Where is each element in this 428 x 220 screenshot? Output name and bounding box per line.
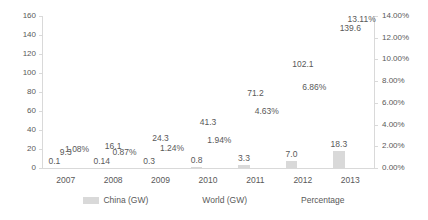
right-axis-tick-mark bbox=[375, 38, 378, 39]
x-axis-tick-label: 2012 bbox=[279, 176, 327, 185]
bar-china-gw-2010 bbox=[191, 167, 202, 168]
legend-label: China (GW) bbox=[103, 196, 148, 205]
right-axis-tick-mark bbox=[375, 59, 378, 60]
data-label: 0.87% bbox=[112, 148, 136, 157]
bar-world-gw-2007 bbox=[60, 159, 71, 168]
data-label: 6.86% bbox=[302, 83, 326, 92]
x-axis-tick-label: 2007 bbox=[42, 176, 90, 185]
data-label: 7.0 bbox=[286, 150, 298, 159]
right-axis-tick-label: 0.00% bbox=[382, 164, 426, 172]
right-axis-tick-mark bbox=[375, 168, 378, 169]
right-axis-tick-label: 12.00% bbox=[382, 34, 426, 42]
plot-area bbox=[42, 16, 374, 168]
data-label: 102.1 bbox=[292, 60, 313, 69]
data-label: 1.24% bbox=[160, 144, 184, 153]
bar-percentage-2011 bbox=[261, 118, 272, 168]
bar-percentage-2013 bbox=[356, 26, 367, 168]
right-axis-tick-label: 2.00% bbox=[382, 142, 426, 150]
legend-swatch-icon bbox=[281, 197, 297, 204]
legend-label: Percentage bbox=[301, 196, 344, 205]
left-axis-tick-label: 140 bbox=[6, 31, 36, 39]
left-axis-tick-label: 20 bbox=[6, 145, 36, 153]
left-axis-tick-label: 40 bbox=[6, 126, 36, 134]
category-axis-line bbox=[42, 168, 375, 169]
data-label: 1.08% bbox=[65, 145, 89, 154]
data-label: 0.14 bbox=[93, 157, 110, 166]
combo-chart: 020406080100120140160 0.00%2.00%4.00%6.0… bbox=[0, 0, 428, 220]
x-axis-tick-label: 2011 bbox=[231, 176, 279, 185]
bar-percentage-2007 bbox=[71, 156, 82, 168]
right-axis-line bbox=[374, 16, 375, 168]
right-axis-tick-label: 4.00% bbox=[382, 121, 426, 129]
data-label: 0.3 bbox=[143, 157, 155, 166]
bar-china-gw-2011 bbox=[238, 165, 249, 168]
data-label: 4.63% bbox=[255, 107, 279, 116]
left-axis-tick-label: 80 bbox=[6, 88, 36, 96]
data-label: 139.6 bbox=[340, 24, 361, 33]
left-axis-tick-label: 160 bbox=[6, 12, 36, 20]
bar-china-gw-2012 bbox=[286, 161, 297, 168]
legend-swatch-icon bbox=[182, 197, 198, 204]
data-label: 0.1 bbox=[48, 157, 60, 166]
right-axis-tick-mark bbox=[375, 125, 378, 126]
right-axis-tick-label: 14.00% bbox=[382, 12, 426, 20]
legend-item[interactable]: World (GW) bbox=[182, 196, 247, 205]
bar-percentage-2008 bbox=[119, 159, 130, 168]
right-axis-tick-mark bbox=[375, 81, 378, 82]
bar-china-gw-2013 bbox=[333, 151, 344, 168]
bar-percentage-2009 bbox=[166, 155, 177, 168]
data-label: 41.3 bbox=[200, 118, 217, 127]
right-axis-tick-mark bbox=[375, 103, 378, 104]
left-axis-tick-mark bbox=[39, 168, 42, 169]
left-axis-tick-label: 100 bbox=[6, 69, 36, 77]
bar-percentage-2012 bbox=[309, 94, 320, 168]
data-label: 0.8 bbox=[191, 156, 203, 165]
x-axis-tick-label: 2009 bbox=[137, 176, 185, 185]
left-axis-tick-label: 120 bbox=[6, 50, 36, 58]
chart-legend: China (GW)World (GW)Percentage bbox=[0, 196, 428, 205]
data-label: 71.2 bbox=[247, 89, 264, 98]
data-label: 3.3 bbox=[238, 154, 250, 163]
legend-item[interactable]: Percentage bbox=[281, 196, 344, 205]
x-axis-tick-label: 2010 bbox=[184, 176, 232, 185]
right-axis-tick-label: 6.00% bbox=[382, 99, 426, 107]
left-axis-tick-label: 60 bbox=[6, 107, 36, 115]
bar-percentage-2010 bbox=[214, 147, 225, 168]
data-label: 1.94% bbox=[207, 136, 231, 145]
left-axis-tick-label: 0 bbox=[6, 164, 36, 172]
x-axis-tick-label: 2008 bbox=[89, 176, 137, 185]
x-axis-tick-label: 2013 bbox=[326, 176, 374, 185]
legend-label: World (GW) bbox=[202, 196, 247, 205]
right-axis-tick-mark bbox=[375, 146, 378, 147]
data-label: 18.3 bbox=[331, 140, 348, 149]
legend-item[interactable]: China (GW) bbox=[83, 196, 148, 205]
right-axis-tick-label: 10.00% bbox=[382, 55, 426, 63]
right-axis-tick-label: 8.00% bbox=[382, 77, 426, 85]
data-label: 13.11% bbox=[348, 15, 376, 24]
legend-swatch-icon bbox=[83, 197, 99, 204]
